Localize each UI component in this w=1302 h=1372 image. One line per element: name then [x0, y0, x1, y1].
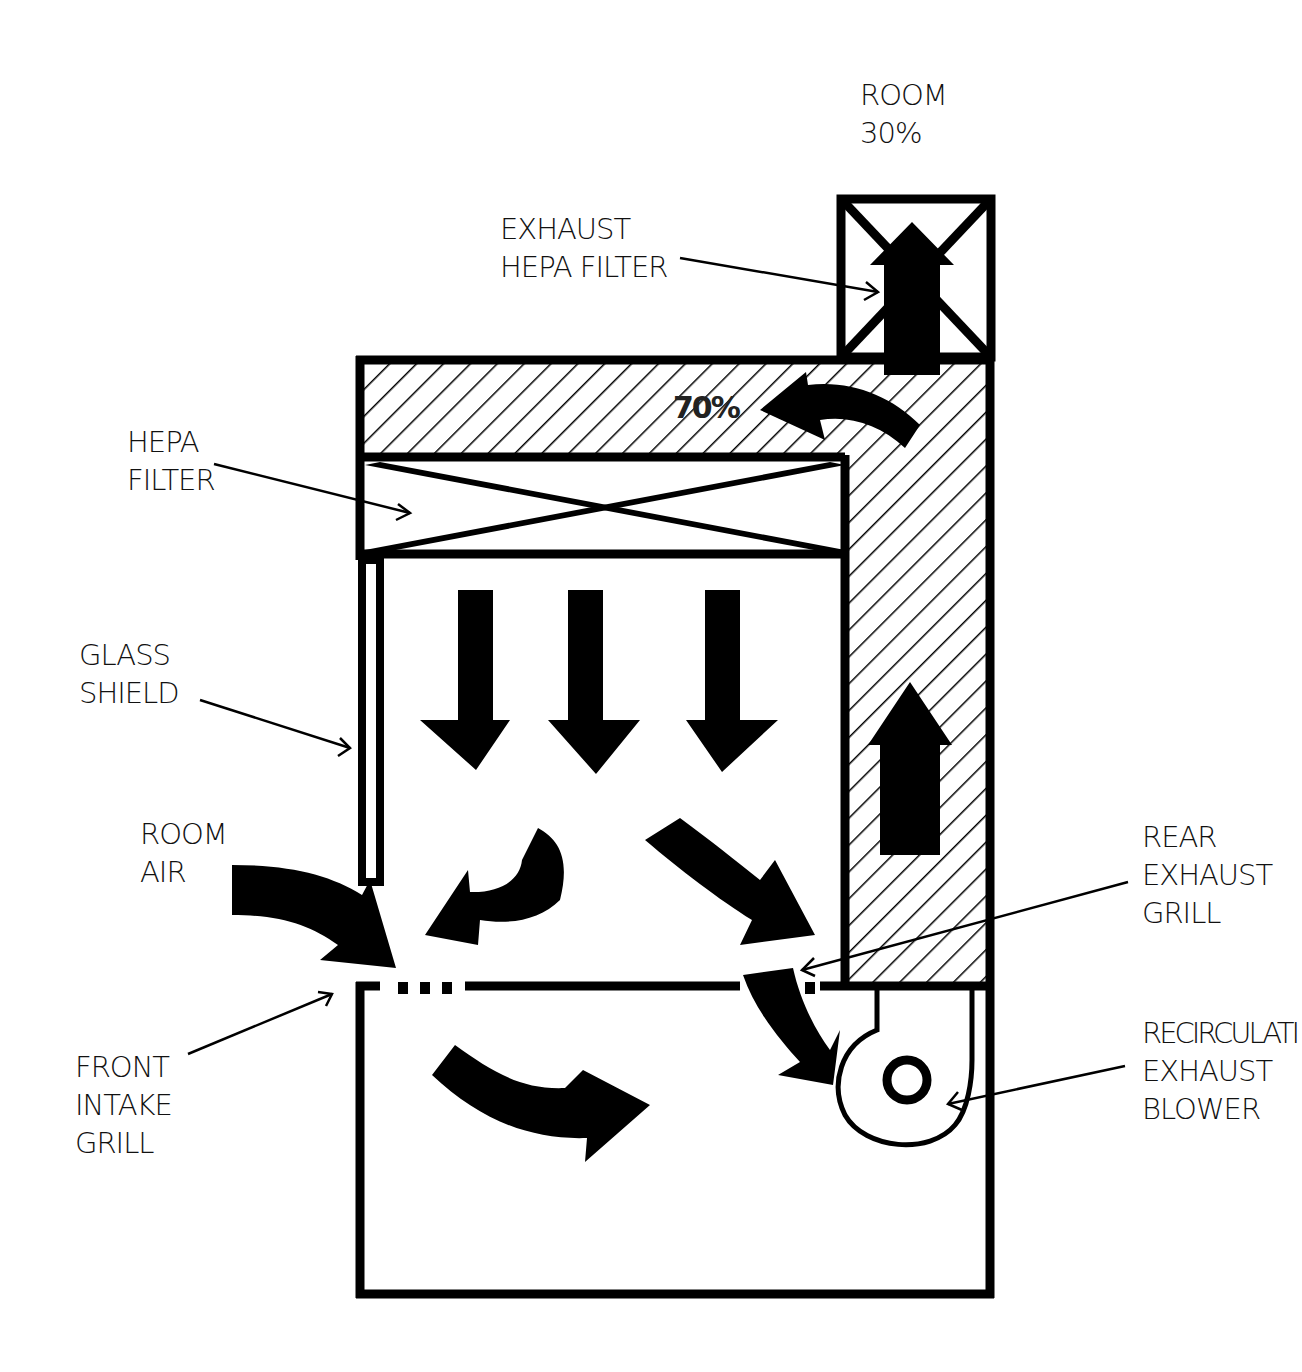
hepa-filter-x-icon	[365, 462, 845, 553]
downflow-arrows	[420, 590, 778, 774]
down-arrow-icon	[420, 590, 510, 770]
exhaust-hepa-label: EXHAUST HEPA FILTER	[500, 210, 667, 286]
glass-shield	[362, 560, 380, 882]
plenum-curved-arrow-icon	[432, 1045, 650, 1162]
room-30-label: ROOM 30%	[860, 76, 947, 152]
glass-shield-label: GLASS SHIELD	[79, 636, 179, 712]
room-air-label: ROOM AIR	[140, 815, 227, 891]
curved-arrow-left-icon	[425, 828, 564, 945]
cabinet-diagram	[0, 0, 1302, 1372]
curved-arrow-right-icon	[645, 818, 815, 945]
front-intake-grill	[398, 982, 452, 994]
recirc-70-label: 70%	[673, 390, 739, 425]
blower-icon	[838, 990, 972, 1145]
blower-label: RECIRCULATI EXHAUST BLOWER	[1142, 1014, 1297, 1128]
down-arrow-icon	[548, 590, 640, 774]
front-intake-label: FRONT INTAKE GRILL	[75, 1048, 172, 1162]
rear-exhaust-label: REAR EXHAUST GRILL	[1142, 818, 1272, 932]
exhaust-hepa-box	[841, 199, 991, 375]
down-arrow-icon	[686, 590, 778, 772]
hepa-filter-label: HEPA FILTER	[127, 423, 215, 499]
